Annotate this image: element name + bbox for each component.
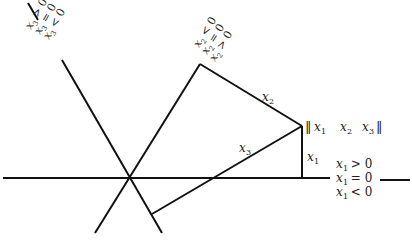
svg-text:x: x xyxy=(262,90,269,104)
svg-text:3: 3 xyxy=(246,148,251,157)
svg-text:x: x xyxy=(314,120,321,134)
x1-negative-label: x 1 < 0 xyxy=(336,185,372,201)
svg-text:x: x xyxy=(336,171,343,185)
svg-text:< 0: < 0 xyxy=(347,185,372,199)
svg-text:x: x xyxy=(340,120,347,134)
svg-text:1: 1 xyxy=(314,157,319,166)
x1-edge-label: x 1 xyxy=(307,150,319,166)
x2-edge xyxy=(200,64,302,126)
x3-edge-label: x 3 xyxy=(239,141,251,157)
svg-text:3: 3 xyxy=(369,127,374,136)
vector-label: ‖ x 1 x 2 x 3 ‖ xyxy=(305,119,383,136)
x2-region-labels: x 2 < 0 x 2 = 0 x 2 > 0 xyxy=(191,15,237,65)
norm-open: ‖ xyxy=(305,119,312,134)
svg-text:2: 2 xyxy=(269,97,274,106)
svg-text:= 0: = 0 xyxy=(347,171,372,185)
svg-text:x: x xyxy=(336,157,343,171)
svg-text:1: 1 xyxy=(321,127,326,136)
coordinate-diagram: ‖ x 1 x 2 x 3 ‖ x 2 x 3 x 1 x 1 > 0 x 1 xyxy=(0,0,412,248)
svg-text:x: x xyxy=(307,150,314,164)
svg-text:2: 2 xyxy=(347,127,352,136)
x1-region-labels: x 1 > 0 x 1 = 0 x 1 < 0 xyxy=(336,157,372,201)
svg-text:x: x xyxy=(362,120,369,134)
x2-edge-label: x 2 xyxy=(262,90,274,106)
svg-text:x: x xyxy=(239,141,246,155)
norm-close: ‖ xyxy=(376,119,383,134)
svg-text:> 0: > 0 xyxy=(347,157,372,171)
x3-edge xyxy=(152,126,302,214)
svg-text:x: x xyxy=(336,185,343,199)
